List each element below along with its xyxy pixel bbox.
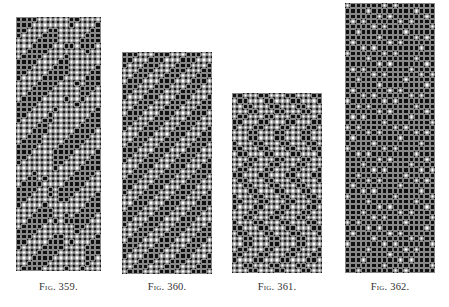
caption-362: Fig. 362. <box>345 281 435 292</box>
weave-cell <box>95 218 100 223</box>
weave-cell <box>58 22 63 27</box>
weave-cell <box>207 200 212 205</box>
weave-cell <box>95 181 100 186</box>
weave-cell <box>258 268 263 273</box>
weave-cell <box>258 204 263 209</box>
weave-cell <box>127 216 132 221</box>
weave-cell <box>207 78 212 83</box>
weave-cell <box>74 112 79 117</box>
weave-cell <box>207 147 212 152</box>
weave-cell <box>317 119 322 124</box>
weave-cell <box>21 165 26 170</box>
weave-cell <box>317 204 322 209</box>
weave-cell <box>42 96 47 101</box>
weave-cell <box>148 269 153 274</box>
weave-cell <box>164 147 169 152</box>
weave-cell <box>42 218 47 223</box>
weave-cell <box>42 266 47 271</box>
weave-cell <box>201 78 206 83</box>
weave-cell <box>180 163 185 168</box>
weave-cell <box>95 266 100 271</box>
weave-cell <box>430 188 435 193</box>
weave-cell <box>207 110 212 115</box>
weave-cell <box>127 253 132 258</box>
weave-cell <box>290 268 295 273</box>
weave-cell <box>74 59 79 64</box>
weave-grid-362 <box>345 3 435 273</box>
weave-cell <box>58 75 63 80</box>
weave-cell <box>21 112 26 117</box>
weave-cell <box>430 268 435 273</box>
weave-cell <box>317 188 322 193</box>
weave-cell <box>95 255 100 260</box>
weave-cell <box>317 135 322 140</box>
weave-cell <box>164 184 169 189</box>
weave-cell <box>127 184 132 189</box>
weave-cell <box>237 268 242 273</box>
caption-359: Fig. 359. <box>16 281 101 292</box>
weave-cell <box>274 172 279 177</box>
weave-cell <box>350 268 355 273</box>
weave-cell <box>127 94 132 99</box>
weave-cell <box>237 135 242 140</box>
weave-cell <box>387 268 392 273</box>
weave-cell <box>237 188 242 193</box>
weave-cell <box>290 188 295 193</box>
weave-cell <box>58 112 63 117</box>
weave-cell <box>21 75 26 80</box>
weave-cell <box>74 22 79 27</box>
weave-cell <box>42 59 47 64</box>
weave-cell <box>58 165 63 170</box>
weave-cell <box>274 241 279 246</box>
weave-cell <box>42 149 47 154</box>
weave-cell <box>237 119 242 124</box>
weave-cell <box>42 165 47 170</box>
weave-cell <box>74 255 79 260</box>
weave-cell <box>207 237 212 242</box>
weave-cell <box>164 216 169 221</box>
weave-cell <box>290 135 295 140</box>
weave-grid-361 <box>232 93 322 273</box>
weave-cell <box>95 96 100 101</box>
weave-cell <box>311 268 316 273</box>
weave-cell <box>274 225 279 230</box>
weave-cell <box>430 257 435 262</box>
weave-cell <box>58 255 63 260</box>
weave-cell <box>180 131 185 136</box>
weave-cell <box>317 151 322 156</box>
weave-cell <box>258 257 263 262</box>
weave-cell <box>180 269 185 274</box>
weave-cell <box>74 239 79 244</box>
weave-cell <box>95 128 100 133</box>
weave-cell <box>42 128 47 133</box>
weave-cell <box>201 147 206 152</box>
weave-cell <box>148 200 153 205</box>
weave-cell <box>74 149 79 154</box>
weave-cell <box>430 114 435 119</box>
weave-cell <box>311 257 316 262</box>
weave-cell <box>290 204 295 209</box>
weave-cell <box>311 204 316 209</box>
weave-cell <box>148 131 153 136</box>
weave-cell <box>127 57 132 62</box>
weave-grid-359 <box>16 17 101 271</box>
weave-cell <box>148 163 153 168</box>
weave-cell <box>201 269 206 274</box>
weave-cell <box>21 239 26 244</box>
weave-cell <box>201 110 206 115</box>
weave-cell <box>201 237 206 242</box>
weave-cell <box>95 165 100 170</box>
weave-cell <box>180 200 185 205</box>
weave-cell <box>58 202 63 207</box>
weave-cell <box>290 119 295 124</box>
weave-cell <box>21 202 26 207</box>
weave-cell <box>164 57 169 62</box>
weave-cell <box>237 204 242 209</box>
weave-cell <box>207 269 212 274</box>
weave-cell <box>317 268 322 273</box>
weave-cell <box>317 98 322 103</box>
caption-361: Fig. 361. <box>232 281 322 292</box>
caption-360: Fig. 360. <box>122 281 212 292</box>
weave-grid-360 <box>122 52 212 274</box>
weave-cell <box>317 257 322 262</box>
